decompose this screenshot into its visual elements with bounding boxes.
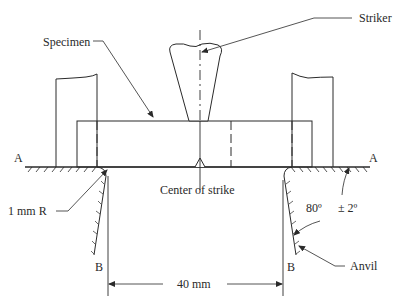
label-striker: Striker: [359, 11, 392, 25]
label-a-right: A: [369, 151, 378, 165]
label-anvil: Anvil: [350, 259, 378, 273]
label-a-left: A: [14, 151, 23, 165]
left-anvil-face: [94, 167, 106, 255]
tolerance-arrow: [342, 168, 349, 195]
specimen: [77, 121, 312, 167]
charpy-diagram: Striker Specimen A A Center of strike 1 …: [0, 0, 396, 307]
label-b-left: B: [95, 260, 103, 274]
hatching-right: [291, 167, 367, 172]
label-angle: 80º: [306, 201, 322, 215]
label-radius: 1 mm R: [8, 204, 47, 218]
striker-leader: [202, 18, 352, 52]
right-anvil-face: [284, 167, 296, 255]
right-anvil-hatching: [286, 181, 300, 254]
hatching-left: [28, 167, 96, 172]
label-span: 40 mm: [177, 277, 211, 291]
left-anvil-hatching: [91, 181, 104, 254]
striker: [170, 43, 222, 121]
label-center-of-strike: Center of strike: [160, 183, 235, 197]
label-tolerance: ± 2º: [338, 201, 358, 215]
radius-leader: [56, 170, 107, 211]
label-b-right: B: [287, 260, 295, 274]
specimen-leader: [93, 41, 153, 117]
anvil-leader: [299, 246, 345, 266]
angle-80-arrow: [294, 221, 320, 235]
label-specimen: Specimen: [43, 35, 90, 49]
